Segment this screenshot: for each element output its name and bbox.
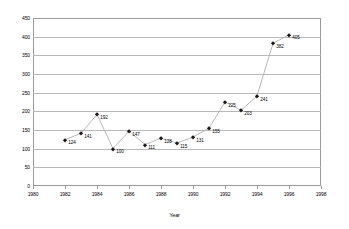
data-point-label: 141 [84,134,92,139]
data-point-label: 155 [212,129,220,134]
x-axis-title: Year [0,212,349,218]
data-series-line [0,0,349,229]
data-point-label: 203 [244,111,252,116]
data-point-label: 131 [196,138,204,143]
data-point-label: 241 [260,97,268,102]
data-point-label: 192 [100,115,108,120]
data-point-label: 100 [116,149,124,154]
data-point-label: 147 [132,132,140,137]
data-point-label: 405 [292,35,300,40]
data-point-label: 382 [276,44,284,49]
data-point-label: 225 [228,103,236,108]
line-chart: 050100150200250300350400450 198019821984… [0,0,349,229]
data-point-label: 115 [180,144,187,149]
data-point-label: 128 [164,139,172,144]
data-point-label: 124 [68,140,76,145]
data-point-label: 111 [148,145,155,150]
